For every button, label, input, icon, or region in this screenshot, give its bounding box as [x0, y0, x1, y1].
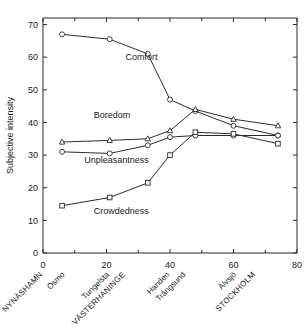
data-point-comfort [168, 97, 173, 102]
data-point-comfort [60, 32, 65, 37]
data-point-crowdedness [60, 203, 65, 208]
data-point-unpleasantness [145, 143, 150, 148]
series-line-crowdedness [62, 132, 278, 205]
data-point-crowdedness [193, 130, 198, 135]
x-station-label: NYNÄSHAMN [1, 270, 45, 314]
y-tick-label: 30 [28, 150, 38, 160]
series-line-comfort [62, 34, 278, 135]
data-point-crowdedness [107, 195, 112, 200]
x-station-label: Ösmo [45, 270, 67, 292]
data-point-crowdedness [145, 181, 150, 186]
series-label-unpleasantness: Unpleasantness [84, 155, 149, 165]
data-point-comfort [107, 37, 112, 42]
series-label-boredom: Boredom [94, 110, 131, 120]
y-tick-label: 0 [33, 248, 38, 258]
y-tick-label: 50 [28, 85, 38, 95]
series-label-comfort: Comfort [126, 52, 159, 62]
data-point-unpleasantness [168, 135, 173, 140]
x-tick-label: 20 [101, 260, 111, 270]
data-point-crowdedness [231, 132, 236, 137]
x-tick-label: 60 [228, 260, 238, 270]
x-tick-label: 40 [165, 260, 175, 270]
series-label-crowdedness: Crowdedness [94, 206, 150, 216]
data-point-crowdedness [276, 141, 281, 146]
y-tick-label: 70 [28, 20, 38, 30]
data-point-comfort [231, 123, 236, 128]
y-tick-label: 10 [28, 216, 38, 226]
y-axis-title: Subjective intensity [5, 96, 15, 174]
x-tick-label: 80 [292, 260, 302, 270]
chart-container: 010203040506070020406080NYNÄSHAMNÖsmoTun… [0, 0, 308, 329]
x-tick-label: 0 [40, 260, 45, 270]
subjective-intensity-line-chart: 010203040506070020406080NYNÄSHAMNÖsmoTun… [0, 0, 308, 329]
data-point-unpleasantness [275, 133, 280, 138]
y-tick-label: 60 [28, 52, 38, 62]
data-point-crowdedness [168, 153, 173, 158]
data-point-unpleasantness [60, 149, 65, 154]
y-tick-label: 40 [28, 118, 38, 128]
y-tick-label: 20 [28, 183, 38, 193]
